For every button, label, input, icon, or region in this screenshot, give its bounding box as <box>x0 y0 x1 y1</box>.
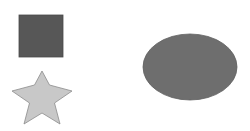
ellipse-shape <box>143 34 237 100</box>
square-shape <box>19 15 63 57</box>
diagram-canvas <box>0 0 250 131</box>
shapes-svg <box>0 0 250 131</box>
star-shape <box>12 71 72 124</box>
